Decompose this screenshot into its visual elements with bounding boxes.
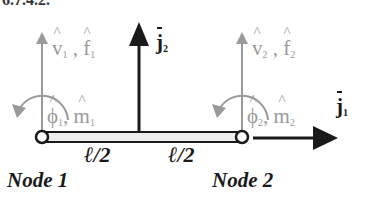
- global-axis-j2-label: j2: [156, 30, 168, 55]
- beam-element: [42, 132, 242, 142]
- phi1-symbol: ϕ: [47, 104, 58, 129]
- node2-rotation-label: ϕ2, m2: [247, 104, 295, 129]
- node2-translation-label: v2 , f2: [252, 36, 295, 61]
- global-axis-j1-label: j1: [336, 94, 348, 119]
- v1-symbol: v: [52, 36, 63, 61]
- m1-symbol: m: [74, 104, 90, 129]
- node2-pin-icon: [236, 131, 248, 143]
- section-header-clipped: 6.7.4.2.: [2, 0, 50, 9]
- f1-symbol: f: [83, 36, 90, 61]
- node1-translation-label: v1 , f1: [52, 36, 95, 61]
- segment-length-label-2: ℓ/2: [168, 142, 195, 168]
- f2-symbol: f: [283, 36, 290, 61]
- node1-rotation-label: ϕ1, m1: [47, 104, 95, 129]
- phi2-symbol: ϕ: [247, 104, 258, 129]
- node1-pin-icon: [36, 131, 48, 143]
- node2-label: Node 2: [212, 168, 273, 193]
- segment-length-label-1: ℓ/2: [84, 142, 111, 168]
- v2-symbol: v: [252, 36, 263, 61]
- node1-label: Node 1: [7, 168, 68, 193]
- m2-symbol: m: [274, 104, 290, 129]
- global-axis-j1-arrow-icon: [253, 126, 338, 150]
- global-axis-j2-arrow-icon: [129, 22, 149, 132]
